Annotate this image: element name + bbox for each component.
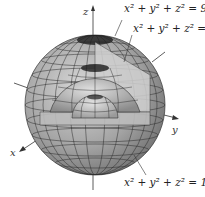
leader-outer bbox=[115, 20, 122, 36]
label-middle-sphere: x² + y² + z² = 4 bbox=[133, 22, 205, 34]
x-axis-arrow bbox=[19, 146, 26, 152]
x-axis-label: x bbox=[10, 147, 16, 158]
label-outer-sphere: x² + y² + z² = 9 bbox=[124, 2, 205, 14]
label-inner-sphere: x² + y² + z² = 1 bbox=[124, 176, 205, 188]
z-axis-arrow bbox=[91, 5, 95, 11]
y-axis-arrow bbox=[172, 115, 179, 120]
y-axis-label: y bbox=[172, 124, 178, 135]
z-axis-label: z bbox=[83, 6, 88, 17]
